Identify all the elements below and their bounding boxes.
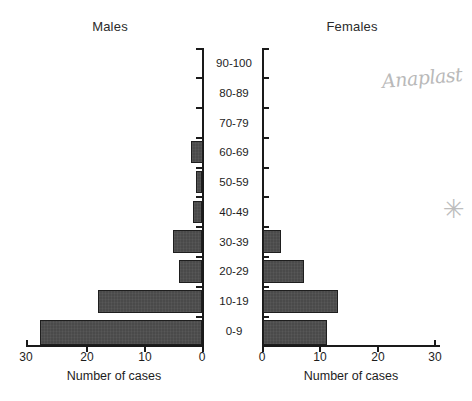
age-label-90-100: 90-100 (205, 57, 263, 69)
female-ytick-top (263, 48, 269, 50)
female-xticklabel-0: 0 (248, 350, 276, 364)
male-xticklabel-0: 0 (188, 350, 216, 364)
male-y-axis (202, 48, 204, 346)
male-bar-50-59 (196, 171, 202, 193)
female-ytick (263, 316, 269, 318)
male-x-axis (26, 345, 203, 347)
male-bar-20-29 (179, 260, 202, 283)
female-xticklabel-10: 10 (302, 350, 338, 364)
female-bar-30-39 (263, 230, 281, 253)
female-ytick (263, 256, 269, 258)
male-ytick (196, 167, 202, 169)
handwritten-annotation-anaplastic: Anaplast (381, 63, 463, 92)
female-xticklabel-20: 20 (360, 350, 396, 364)
male-ytick (196, 77, 202, 79)
female-bar-20-29 (263, 260, 304, 283)
male-xticklabel-10: 10 (127, 350, 163, 364)
male-bar-10-19 (98, 290, 202, 313)
male-ytick-top (196, 48, 202, 50)
female-bar-10-19 (263, 290, 338, 313)
male-bar-40-49 (193, 201, 202, 223)
age-label-60-69: 60-69 (205, 146, 263, 158)
male-xticklabel-30: 30 (8, 350, 44, 364)
population-pyramid-figure: Males Females 30 20 (0, 0, 472, 401)
panel-title-females: Females (302, 19, 402, 34)
female-x-axis (262, 345, 440, 347)
male-ytick (196, 196, 202, 198)
female-bar-0-9 (263, 320, 327, 345)
male-xtick-30 (26, 340, 28, 346)
male-ytick (196, 286, 202, 288)
male-ytick (196, 256, 202, 258)
female-xtick-30 (434, 340, 436, 346)
handwritten-asterisk-mark: ✳ (443, 194, 465, 224)
male-ytick (196, 107, 202, 109)
male-bar-30-39 (173, 230, 202, 253)
age-label-70-79: 70-79 (205, 117, 263, 129)
female-xticklabel-30: 30 (417, 350, 453, 364)
age-label-10-19: 10-19 (205, 295, 263, 307)
age-label-40-49: 40-49 (205, 206, 263, 218)
male-bar-0-9 (40, 320, 202, 345)
age-label-50-59: 50-59 (205, 176, 263, 188)
female-ytick (263, 226, 269, 228)
female-ytick (263, 107, 269, 109)
female-axis-caption: Number of cases (262, 369, 440, 383)
female-ytick (263, 137, 269, 139)
panel-title-males: Males (60, 19, 160, 34)
male-ytick (196, 316, 202, 318)
age-label-30-39: 30-39 (205, 236, 263, 248)
female-ytick (263, 196, 269, 198)
female-ytick (263, 286, 269, 288)
male-ytick (196, 137, 202, 139)
male-axis-caption: Number of cases (26, 369, 202, 383)
age-label-80-89: 80-89 (205, 87, 263, 99)
male-bar-60-69 (191, 141, 203, 163)
female-ytick (263, 77, 269, 79)
age-label-0-9: 0-9 (205, 325, 263, 337)
male-ytick (196, 226, 202, 228)
age-label-20-29: 20-29 (205, 265, 263, 277)
female-ytick (263, 167, 269, 169)
male-xticklabel-20: 20 (69, 350, 105, 364)
